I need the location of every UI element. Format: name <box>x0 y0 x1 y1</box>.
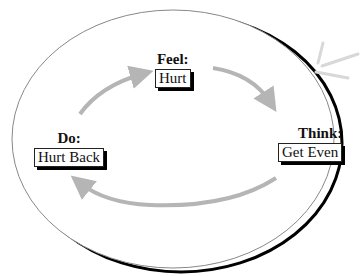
node-think-label: Think: <box>278 125 342 142</box>
node-do: Do: Hurt Back <box>34 130 104 167</box>
node-feel: Feel: Hurt <box>155 51 191 88</box>
node-think: Think: Get Even <box>278 125 342 162</box>
glint-icon <box>316 43 358 78</box>
node-feel-label: Feel: <box>155 51 191 68</box>
node-think-value: Get Even <box>278 143 342 162</box>
node-do-label: Do: <box>34 130 104 147</box>
node-do-value: Hurt Back <box>34 148 104 167</box>
node-feel-value: Hurt <box>155 69 191 88</box>
